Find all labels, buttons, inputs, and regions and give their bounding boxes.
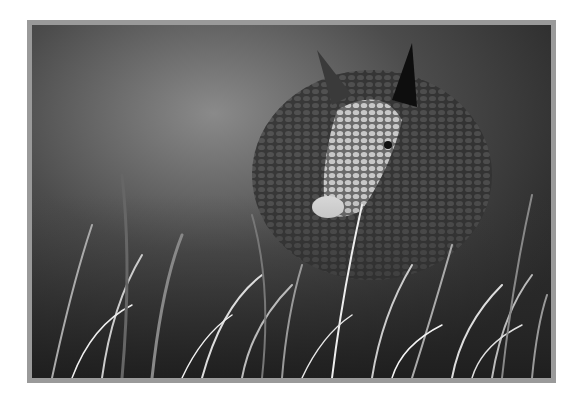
photo-frame (27, 20, 556, 383)
armadillo-illustration (32, 25, 551, 378)
armadillo-photo (32, 25, 551, 378)
